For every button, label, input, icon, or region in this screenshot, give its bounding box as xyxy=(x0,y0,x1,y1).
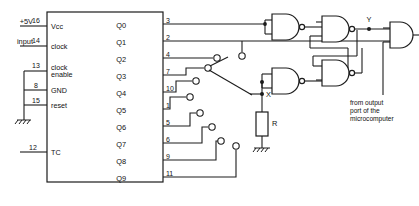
switch-terminal-q7[interactable] xyxy=(209,124,215,130)
pin-number-13: 13 xyxy=(32,62,40,69)
switch-terminal-upper-pole[interactable] xyxy=(239,53,245,59)
switch-wiper-main[interactable] xyxy=(209,70,252,95)
output-label-q0: Q0 xyxy=(116,21,126,30)
nand-gate-inverter-bottom xyxy=(262,68,322,94)
pin-number-14: 14 xyxy=(32,37,40,44)
junction-y xyxy=(367,27,371,31)
switch-terminal-q2[interactable] xyxy=(214,55,220,61)
pin-label-vcc: Vcc xyxy=(51,22,63,31)
switch-terminal-q4[interactable] xyxy=(193,78,199,84)
output-label-q6: Q6 xyxy=(116,123,126,132)
pin-label-reset: reset xyxy=(51,101,67,110)
pin-number-16: 16 xyxy=(32,17,40,24)
wire-q8 xyxy=(163,141,218,160)
output-label-q4: Q4 xyxy=(116,89,126,98)
output-label-q1: Q1 xyxy=(116,38,126,47)
microcomputer-note-line1: from output xyxy=(350,99,384,107)
output-pin-q4: 10 xyxy=(166,85,174,92)
resistor-r xyxy=(256,112,268,136)
output-pin-q3: 7 xyxy=(166,68,170,75)
output-pin-q5: 1 xyxy=(166,102,170,109)
pin-label-tc: TC xyxy=(51,148,61,157)
schematic-canvas: +5V input 16 14 13 8 15 12 Vcc clock clo… xyxy=(0,0,419,206)
ground-symbol-x xyxy=(253,148,270,152)
node-label-y: Y xyxy=(367,15,372,24)
circuit-diagram: +5V input 16 14 13 8 15 12 Vcc clock clo… xyxy=(0,0,419,206)
output-pin-q2: 4 xyxy=(166,51,170,58)
pin-label-gnd: GND xyxy=(51,86,67,95)
output-pin-q7: 6 xyxy=(166,136,170,143)
output-label-q8: Q8 xyxy=(116,157,126,166)
pin-label-clock: clock xyxy=(51,42,68,51)
pin-number-12: 12 xyxy=(29,144,37,151)
and-gate-output xyxy=(383,22,419,48)
output-pin-q0: 3 xyxy=(166,17,170,24)
output-pin-q1: 2 xyxy=(166,34,170,41)
microcomputer-note-line3: microcomputer xyxy=(350,115,394,123)
node-label-x: X xyxy=(266,90,271,99)
switch-terminal-q9[interactable] xyxy=(233,143,239,149)
output-pin-q6: 5 xyxy=(166,119,170,126)
output-label-q2: Q2 xyxy=(116,55,126,64)
pin-label-clock-enable-line2: enable xyxy=(51,70,73,79)
counter-ic-body xyxy=(47,12,163,182)
input-label: input xyxy=(17,37,33,46)
output-label-q9: Q9 xyxy=(116,174,126,183)
output-pin-q9: 11 xyxy=(166,170,173,177)
pin-number-8: 8 xyxy=(34,82,38,89)
output-label-q7: Q7 xyxy=(116,140,126,149)
output-label-q5: Q5 xyxy=(116,106,126,115)
switch-terminal-q5[interactable] xyxy=(187,94,193,100)
resistor-label: R xyxy=(272,119,277,128)
wire-q9 xyxy=(163,150,236,177)
pin-number-15: 15 xyxy=(32,97,40,104)
microcomputer-note-line2: port of the xyxy=(350,107,380,115)
output-pin-q8: 9 xyxy=(166,153,170,160)
switch-terminal-q6[interactable] xyxy=(197,110,203,116)
output-label-q3: Q3 xyxy=(116,72,126,81)
supply-label: +5V xyxy=(20,17,33,26)
ground-symbol xyxy=(15,120,31,124)
switch-terminal-q8[interactable] xyxy=(218,138,224,144)
